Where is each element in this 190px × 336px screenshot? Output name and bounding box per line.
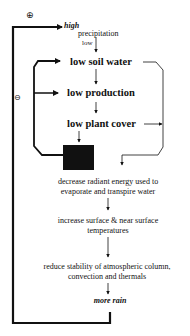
diagram-connectors [0, 0, 190, 336]
stability-line1: reduce stability of atmospheric column, [44, 263, 171, 271]
more-rain-node: more rain [94, 297, 127, 305]
negative-loop-sign: ⊖ [14, 94, 21, 102]
precipitation-low-label: low [82, 40, 93, 47]
precipitation-label: precipitation [78, 30, 118, 38]
positive-loop-sign: ⊕ [26, 11, 34, 20]
precipitation-high-label: high [64, 22, 79, 30]
radiant-energy-line2: evaporate and transpire water [61, 188, 155, 196]
low-soil-water-node: low soil water [70, 57, 132, 68]
surface-temp-line2: temperatures [87, 227, 128, 235]
low-plant-cover-node: low plant cover [67, 119, 136, 130]
inner-feedback-loop [34, 61, 63, 155]
low-production-node: low production [67, 88, 135, 99]
stability-line2: convection and thermals [68, 273, 146, 281]
radiant-energy-line1: decrease radiant energy used to [58, 178, 158, 186]
right-connector [122, 62, 163, 165]
black-box-node [63, 145, 94, 170]
surface-temp-line1: increase surface & near surface [58, 217, 158, 225]
